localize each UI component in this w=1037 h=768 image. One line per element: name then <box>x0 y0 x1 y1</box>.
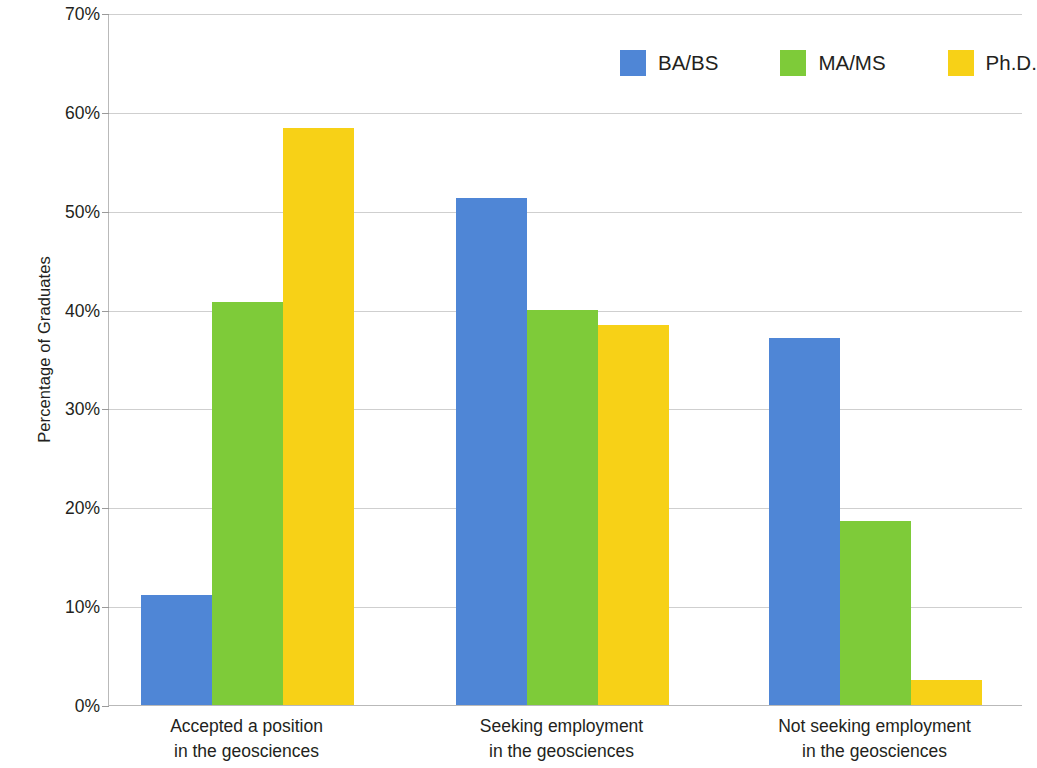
y-axis-tick-label: 20% <box>26 498 100 519</box>
x-axis-category-label: Accepted a positionin the geosciences <box>97 714 397 764</box>
chart-legend: BA/BSMA/MSPh.D. <box>620 50 1037 76</box>
bar[interactable] <box>212 302 283 705</box>
y-axis-tick-label: 40% <box>26 300 100 321</box>
x-axis-category-label-line: in the geosciences <box>725 739 1025 764</box>
bar-group <box>769 14 982 705</box>
legend-item-ba-bs[interactable]: BA/BS <box>620 50 718 76</box>
x-axis-category-label: Seeking employmentin the geosciences <box>412 714 712 764</box>
x-axis-category-label: Not seeking employmentin the geosciences <box>725 714 1025 764</box>
x-axis-category-label-line: in the geosciences <box>97 739 397 764</box>
legend-label: MA/MS <box>818 51 885 75</box>
y-axis-tickmark <box>102 212 109 213</box>
bar[interactable] <box>141 595 212 705</box>
y-axis-tickmark <box>102 311 109 312</box>
bars-layer <box>109 14 1022 705</box>
legend-item-ph-d[interactable]: Ph.D. <box>948 50 1037 76</box>
legend-swatch-icon <box>780 50 806 76</box>
plot-area <box>108 14 1022 706</box>
y-axis-tick-label: 60% <box>26 102 100 123</box>
legend-swatch-icon <box>948 50 974 76</box>
bar-group <box>141 14 354 705</box>
x-axis-category-labels: Accepted a positionin the geosciencesSee… <box>108 714 1022 768</box>
legend-label: Ph.D. <box>986 51 1037 75</box>
y-axis-tickmark <box>102 14 109 15</box>
y-axis-tick-label: 30% <box>26 399 100 420</box>
bar[interactable] <box>283 128 354 705</box>
legend-swatch-icon <box>620 50 646 76</box>
bar[interactable] <box>456 198 527 705</box>
y-axis-tickmark <box>102 607 109 608</box>
y-axis-tickmark <box>102 409 109 410</box>
y-axis-tick-labels: 70%60%50%40%30%20%10%0% <box>26 0 100 768</box>
bar[interactable] <box>911 680 982 705</box>
legend-label: BA/BS <box>658 51 718 75</box>
bar[interactable] <box>527 310 598 705</box>
x-axis-category-label-line: Seeking employment <box>412 714 712 739</box>
y-axis-tickmark <box>102 113 109 114</box>
y-axis-tick-label: 70% <box>26 4 100 25</box>
bar[interactable] <box>840 521 911 705</box>
y-axis-tick-label: 0% <box>26 696 100 717</box>
bar[interactable] <box>598 325 669 705</box>
x-axis-category-label-line: Accepted a position <box>97 714 397 739</box>
legend-item-ma-ms[interactable]: MA/MS <box>780 50 885 76</box>
y-axis-tick-label: 10% <box>26 597 100 618</box>
y-axis-tickmark <box>102 706 109 707</box>
y-axis-tickmark <box>102 508 109 509</box>
x-axis-category-label-line: Not seeking employment <box>725 714 1025 739</box>
x-axis-category-label-line: in the geosciences <box>412 739 712 764</box>
y-axis-tick-label: 50% <box>26 201 100 222</box>
bar[interactable] <box>769 338 840 705</box>
bar-group <box>456 14 669 705</box>
